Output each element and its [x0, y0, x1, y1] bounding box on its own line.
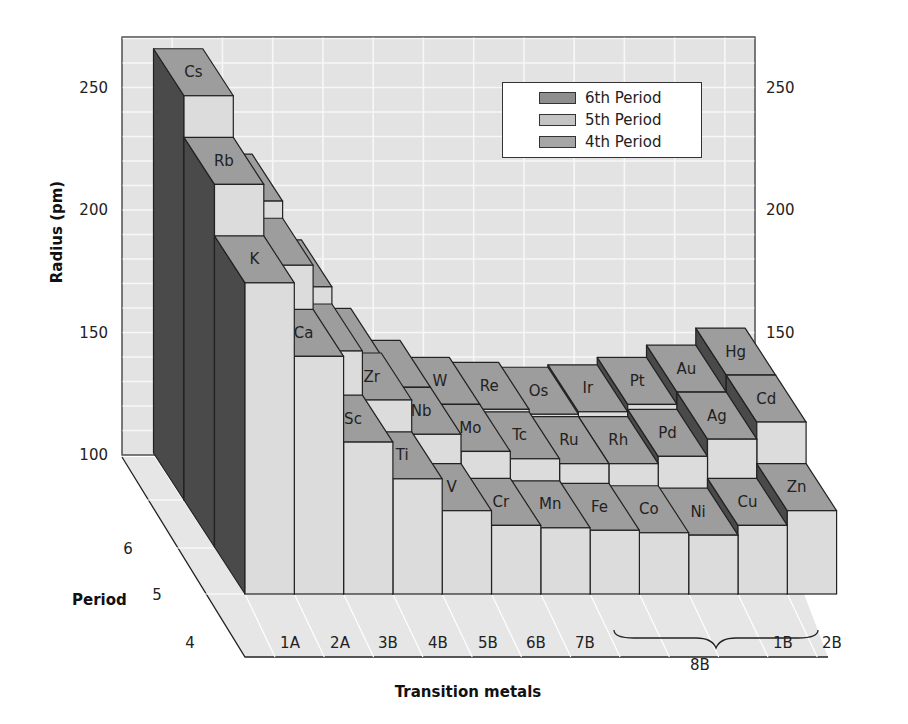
y-axis-title: Radius (pm): [48, 181, 66, 283]
element-label-cu: Cu: [737, 493, 757, 511]
element-label-ir: Ir: [583, 379, 594, 397]
bar-front-face: [738, 525, 787, 594]
bar-front-face: [590, 530, 639, 594]
bar-front-face: [639, 533, 688, 594]
element-label-zr: Zr: [364, 368, 381, 386]
x-tick-group: 8B: [690, 656, 710, 674]
y-tick-right: 150: [766, 324, 795, 342]
element-label-cs: Cs: [184, 63, 202, 81]
element-label-re: Re: [480, 377, 499, 395]
element-label-ti: Ti: [395, 446, 409, 464]
element-label-au: Au: [677, 360, 697, 378]
chart-canvas: HgAuPtIrOsReWCsCdAgPdRhRuTcMoNbZrRbZnCuN…: [0, 0, 908, 724]
bar-front-face: [787, 511, 836, 594]
bar-front-face: [689, 535, 738, 594]
y-tick-left: 250: [79, 79, 108, 97]
period-tick: 4: [185, 634, 195, 652]
x-tick: 6B: [526, 634, 546, 652]
x-tick: 5B: [478, 634, 498, 652]
element-label-rh: Rh: [608, 431, 628, 449]
x-tick: 1B: [773, 634, 793, 652]
element-label-zn: Zn: [787, 478, 807, 496]
element-label-mo: Mo: [459, 419, 481, 437]
x-tick: 4B: [428, 634, 448, 652]
bar-side-face: [184, 137, 215, 547]
element-label-sc: Sc: [344, 410, 362, 428]
legend-item-5th-period: 5th Period: [539, 109, 701, 131]
element-label-tc: Tc: [511, 426, 527, 444]
period-axis-title: Period: [72, 591, 127, 609]
period-tick: 5: [152, 586, 162, 604]
bar-side-face: [215, 236, 246, 594]
element-label-ca: Ca: [294, 324, 314, 342]
y-tick-left: 200: [79, 201, 108, 219]
x-tick: 3B: [378, 634, 398, 652]
element-label-k: K: [249, 250, 260, 268]
x-axis-title: Transition metals: [395, 683, 542, 701]
x-tick: 7B: [575, 634, 595, 652]
legend-label: 6th Period: [585, 89, 661, 107]
chart-legend: 6th Period 5th Period 4th Period: [502, 82, 702, 158]
y-tick-right: 250: [766, 79, 795, 97]
legend-swatch-6th: [539, 92, 576, 104]
element-label-ag: Ag: [707, 407, 727, 425]
bar-front-face: [294, 356, 343, 594]
element-label-w: W: [432, 372, 447, 390]
legend-swatch-4th: [539, 136, 576, 148]
x-tick: 1A: [280, 634, 301, 652]
legend-swatch-5th: [539, 114, 576, 126]
legend-item-4th-period: 4th Period: [539, 131, 701, 153]
legend-label: 5th Period: [585, 111, 661, 129]
period-tick: 6: [123, 540, 133, 558]
y-tick-left: 150: [79, 324, 108, 342]
element-label-nb: Nb: [411, 402, 432, 420]
bar-front-face: [344, 442, 393, 594]
bar-front-face: [442, 511, 491, 594]
element-label-pt: Pt: [630, 372, 645, 390]
element-label-fe: Fe: [591, 498, 608, 516]
y-tick-right: 200: [766, 201, 795, 219]
y-tick-left: 100: [79, 446, 108, 464]
element-label-pd: Pd: [658, 424, 677, 442]
element-label-v: V: [446, 478, 457, 496]
legend-item-6th-period: 6th Period: [539, 87, 701, 109]
element-label-ni: Ni: [690, 503, 705, 521]
element-label-hg: Hg: [725, 343, 746, 361]
element-label-os: Os: [529, 382, 549, 400]
x-tick: 2A: [330, 634, 351, 652]
element-label-ru: Ru: [559, 431, 578, 449]
element-label-cr: Cr: [493, 493, 510, 511]
element-label-co: Co: [639, 500, 659, 518]
bar-front-face: [541, 528, 590, 594]
bar-side-face: [154, 49, 185, 500]
bar-front-face: [245, 283, 294, 594]
element-label-cd: Cd: [756, 390, 776, 408]
bar-front-face: [492, 525, 541, 594]
legend-label: 4th Period: [585, 133, 661, 151]
bar-front-face: [393, 479, 442, 594]
element-label-mn: Mn: [539, 495, 561, 513]
element-label-rb: Rb: [214, 152, 234, 170]
x-tick: 2B: [822, 634, 842, 652]
